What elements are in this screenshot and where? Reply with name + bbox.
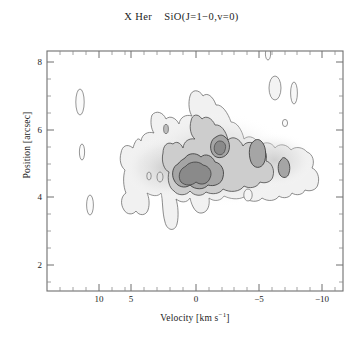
isolated-island xyxy=(282,119,287,126)
plot-canvas xyxy=(0,0,363,338)
isolated-island xyxy=(269,76,281,100)
isolated-island xyxy=(79,144,84,160)
contour-peak-knot xyxy=(214,141,225,155)
isolated-island xyxy=(164,124,169,133)
isolated-island xyxy=(291,82,298,104)
contour-level-3-knot xyxy=(249,140,265,168)
contour-level-3-knot xyxy=(278,158,290,178)
isolated-island xyxy=(157,172,163,182)
isolated-island xyxy=(147,172,151,180)
pv-diagram-figure: X Her SiO(J=1−0,v=0) Position [arcsec] V… xyxy=(0,0,363,338)
isolated-island xyxy=(87,195,94,215)
isolated-island xyxy=(265,48,270,60)
isolated-island xyxy=(76,89,84,115)
isolated-island xyxy=(244,189,252,201)
contour-map xyxy=(76,48,319,229)
